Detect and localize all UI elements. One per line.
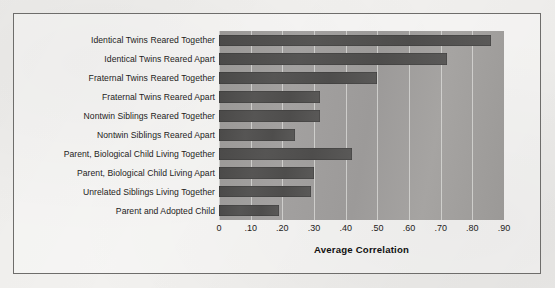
category-label: Fraternal Twins Reared Together <box>18 73 215 83</box>
bar <box>219 53 447 65</box>
category-label: Nontwin Siblings Reared Apart <box>18 130 215 140</box>
x-tick-label: .90 <box>498 223 511 233</box>
x-axis-title: Average Correlation <box>219 244 504 255</box>
category-label: Identical Twins Reared Apart <box>18 54 215 64</box>
bar <box>219 91 320 103</box>
bar <box>219 129 295 141</box>
bar <box>219 167 314 179</box>
plot-area <box>219 31 504 220</box>
x-tick-label: .50 <box>371 223 384 233</box>
bar-row <box>219 186 504 198</box>
x-tick-label: .70 <box>434 223 447 233</box>
category-label: Parent, Biological Child Living Together <box>18 149 215 159</box>
category-label: Fraternal Twins Reared Apart <box>18 92 215 102</box>
figure-canvas: Identical Twins Reared TogetherIdentical… <box>0 0 555 288</box>
category-label: Identical Twins Reared Together <box>18 35 215 45</box>
bar <box>219 205 279 217</box>
bar-row <box>219 167 504 179</box>
x-tick-label: .60 <box>403 223 416 233</box>
x-tick-label: .30 <box>308 223 321 233</box>
x-tick-label: .80 <box>466 223 479 233</box>
x-tick-label: .20 <box>276 223 289 233</box>
bar <box>219 35 491 47</box>
category-label: Parent and Adopted Child <box>18 206 215 216</box>
bar-chart: Identical Twins Reared TogetherIdentical… <box>0 0 555 288</box>
bar-row <box>219 91 504 103</box>
x-axis-tick-labels: 0.10.20.30.40.50.60.70.80.90 <box>219 223 504 239</box>
bar-row <box>219 110 504 122</box>
bar-row <box>219 53 504 65</box>
bar-row <box>219 148 504 160</box>
bar-row <box>219 129 504 141</box>
bar-row <box>219 72 504 84</box>
x-tick-label: .40 <box>339 223 352 233</box>
bar-row <box>219 205 504 217</box>
bar <box>219 186 311 198</box>
category-label: Parent, Biological Child Living Apart <box>18 168 215 178</box>
category-label: Nontwin Siblings Reared Together <box>18 111 215 121</box>
bar <box>219 72 377 84</box>
x-tick-label: 0 <box>216 223 221 233</box>
bar-row <box>219 35 504 47</box>
bar <box>219 110 320 122</box>
x-tick-label: .10 <box>244 223 257 233</box>
bar <box>219 148 352 160</box>
category-label: Unrelated Siblings Living Together <box>18 187 215 197</box>
category-axis-labels: Identical Twins Reared TogetherIdentical… <box>18 31 215 220</box>
